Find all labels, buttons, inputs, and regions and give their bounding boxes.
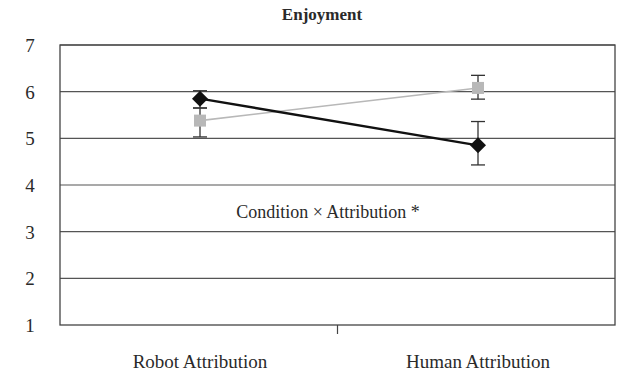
y-tick-label: 6 bbox=[25, 82, 35, 103]
y-tick-label: 5 bbox=[25, 128, 35, 149]
y-tick-label: 3 bbox=[25, 222, 35, 243]
square-marker bbox=[194, 115, 206, 127]
diamond-marker bbox=[470, 137, 486, 153]
y-tick-label: 4 bbox=[25, 175, 35, 196]
y-tick-label: 2 bbox=[25, 268, 35, 289]
x-category-label: Robot Attribution bbox=[133, 351, 268, 372]
chart-plot: 1234567Robot AttributionHuman Attributio… bbox=[0, 0, 644, 387]
annotation-text: Condition × Attribution * bbox=[236, 202, 420, 222]
series-line bbox=[200, 88, 478, 121]
y-tick-label: 1 bbox=[25, 315, 35, 336]
diamond-marker bbox=[192, 91, 208, 107]
square-marker bbox=[472, 82, 484, 94]
y-tick-label: 7 bbox=[25, 35, 35, 56]
x-category-label: Human Attribution bbox=[406, 351, 551, 372]
